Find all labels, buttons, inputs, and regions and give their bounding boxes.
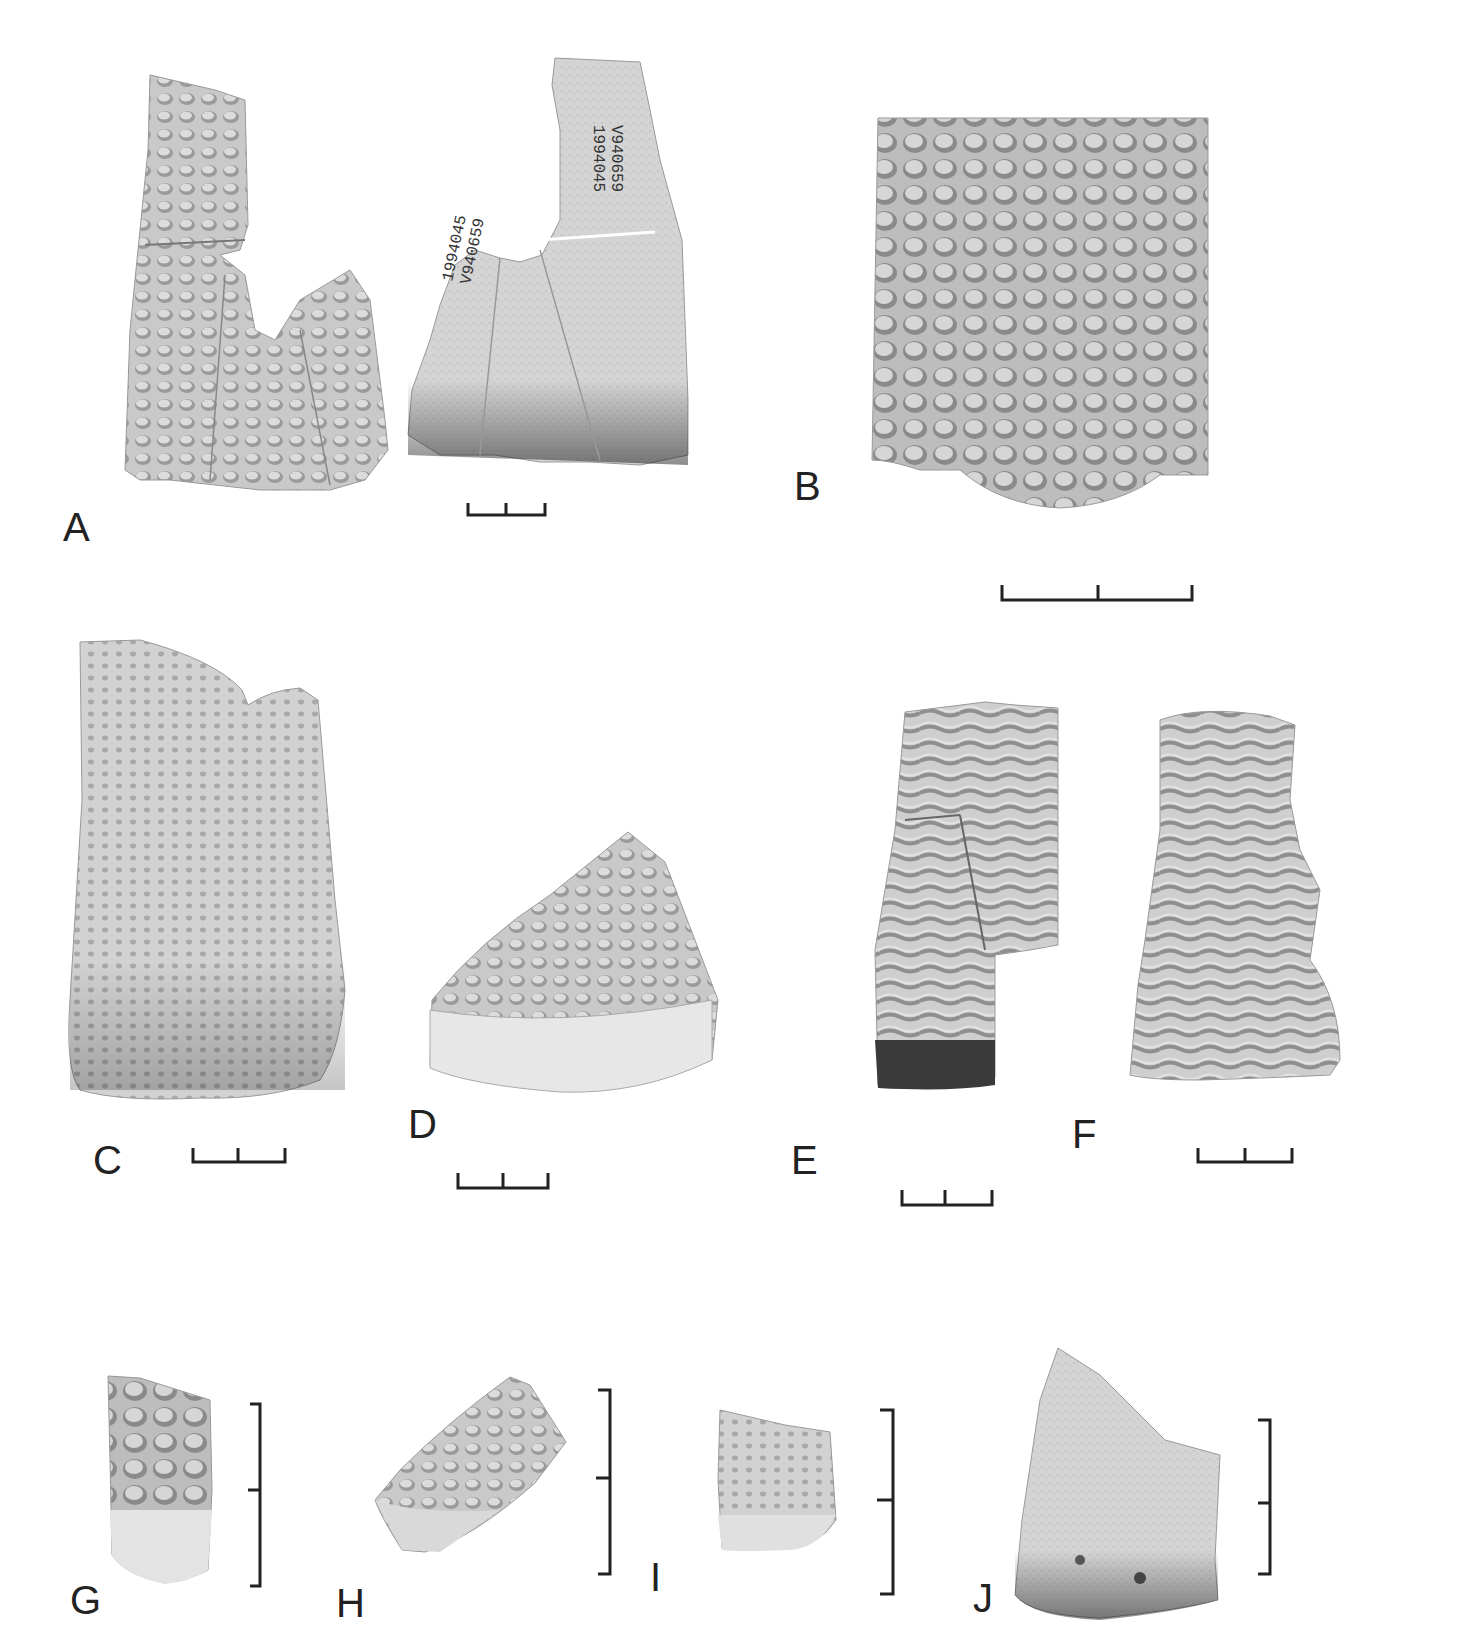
panel-label-c: C (93, 1140, 122, 1180)
sherd-h (375, 1377, 566, 1552)
catalogue-note-1: V940659 (607, 125, 625, 192)
sherd-b-closeup (872, 118, 1208, 508)
scale-bar-a (468, 503, 545, 515)
sherd-d (430, 832, 718, 1092)
scale-bar-e (902, 1190, 992, 1205)
scale-bar-j (1258, 1420, 1270, 1574)
sherd-a-interior: V940659 1994045 V940659 1994045 (408, 58, 688, 465)
scale-bar-b (1002, 585, 1192, 600)
scale-bar-g (248, 1404, 260, 1586)
sherd-c (69, 640, 345, 1099)
sherd-j (1015, 1348, 1220, 1620)
sherd-f (1130, 711, 1340, 1080)
scale-bar-f (1198, 1148, 1292, 1162)
panel-label-b: B (794, 466, 821, 506)
sherd-g (108, 1376, 212, 1584)
panel-label-f: F (1072, 1114, 1096, 1154)
scale-bar-h (596, 1390, 610, 1574)
sherd-e (875, 702, 1058, 1089)
sherd-a-exterior (125, 75, 388, 490)
catalogue-note-2: 1994045 (589, 125, 607, 192)
panel-label-j: J (973, 1578, 993, 1618)
panel-label-h: H (336, 1583, 365, 1623)
panel-label-e: E (791, 1140, 818, 1180)
panel-label-a: A (63, 507, 90, 547)
scale-bar-d (458, 1173, 548, 1188)
panel-label-g: G (70, 1580, 101, 1620)
panel-label-i: I (650, 1557, 661, 1597)
scale-bar-c (193, 1148, 285, 1162)
panel-label-d: D (408, 1104, 437, 1144)
sherd-i (718, 1410, 836, 1551)
figure-plate: V940659 1994045 V940659 1994045 (0, 0, 1476, 1645)
scale-bar-i (877, 1410, 893, 1594)
